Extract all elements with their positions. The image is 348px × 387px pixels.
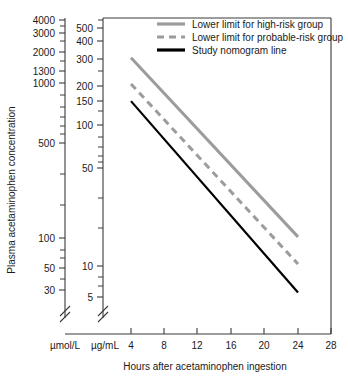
x-tick: 20 [258,340,270,351]
x-tick: 24 [292,340,304,351]
y-right-tick: 200 [76,81,93,92]
y-axis-left-unit: µmol/L [50,340,81,351]
y-right-tick: 500 [76,23,93,34]
x-tick: 8 [161,340,167,351]
x-tick: 16 [225,340,237,351]
chart-background [0,0,348,387]
y-right-tick: 5 [87,292,93,303]
y-left-tick: 50 [44,263,56,274]
x-tick: 28 [325,340,337,351]
legend-label: Lower limit for probable-risk group [192,32,344,43]
y-right-tick: 100 [76,120,93,131]
x-tick: 12 [191,340,203,351]
y-right-tick: 10 [82,261,94,272]
y-left-tick: 100 [38,233,55,244]
y-left-tick: 2000 [33,47,56,58]
y-left-tick: 3000 [33,28,56,39]
acetaminophen-nomogram-chart: Plasma acetaminophen concentration [0,0,348,387]
y-right-tick: 300 [76,54,93,65]
legend-label: Lower limit for high-risk group [192,19,324,30]
legend-label: Study nomogram line [192,45,287,56]
y-right-tick: 400 [76,36,93,47]
x-axis-title: Hours after acetaminophen ingestion [123,361,286,372]
y-left-tick: 500 [38,138,55,149]
x-tick: 4 [128,340,134,351]
y-right-tick: 50 [82,163,94,174]
y-axis-right-unit: µg/mL [91,340,119,351]
y-right-tick: 150 [76,96,93,107]
y-left-tick: 4000 [33,15,56,26]
y-left-tick: 1000 [33,78,56,89]
y-left-tick: 1300 [33,66,56,77]
chart-root: Plasma acetaminophen concentration [0,0,348,387]
y-axis-title: Plasma acetaminophen concentration [6,106,17,273]
y-left-tick: 30 [44,285,56,296]
